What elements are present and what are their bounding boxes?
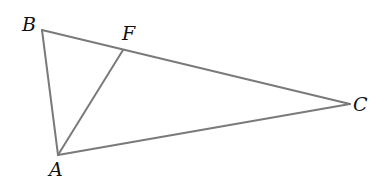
vertex-label-a: A bbox=[47, 158, 63, 180]
triangle-diagram: B F C A bbox=[0, 0, 388, 180]
vertex-label-b: B bbox=[21, 13, 36, 35]
segment-af bbox=[58, 50, 123, 155]
diagram-canvas: B F C A bbox=[0, 0, 388, 180]
segment-ca bbox=[58, 104, 350, 155]
vertex-label-c: C bbox=[353, 93, 368, 115]
segment-bc bbox=[42, 30, 350, 104]
point-label-f: F bbox=[121, 22, 136, 44]
segment-ab bbox=[42, 30, 58, 155]
